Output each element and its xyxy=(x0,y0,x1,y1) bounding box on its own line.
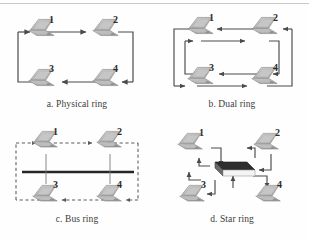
link-hub-to-3 xyxy=(207,180,215,194)
node-label-1: 1 xyxy=(53,127,58,137)
node-label-1: 1 xyxy=(199,128,204,138)
panel-bus-ring: 1 2 3 4 c. Bus ring xyxy=(0,118,154,237)
figure-network-ring-topologies: 1 2 3 4 a. Physical ring xyxy=(0,0,309,239)
central-hub-icon xyxy=(215,162,255,176)
caption-dual-ring: b. Dual ring xyxy=(155,99,309,109)
panel-star-ring: 1 2 3 4 d. Star ring xyxy=(155,118,309,237)
caption-physical-ring: a. Physical ring xyxy=(0,99,154,109)
panel-dual-ring: 1 2 3 4 b. Dual ring xyxy=(155,4,309,123)
node-label-3: 3 xyxy=(201,180,206,190)
node-label-3: 3 xyxy=(209,63,214,73)
link-3-to-hub xyxy=(189,172,201,180)
link-hub-to-2 xyxy=(247,148,255,158)
node-label-2: 2 xyxy=(117,127,122,137)
node-label-2: 2 xyxy=(273,13,278,23)
caption-star-ring: d. Star ring xyxy=(155,214,309,224)
node-label-2: 2 xyxy=(113,15,118,25)
node-label-3: 3 xyxy=(49,64,54,74)
caption-bus-ring: c. Bus ring xyxy=(0,214,154,224)
link-hub-to-1 xyxy=(199,158,210,166)
node-label-4: 4 xyxy=(113,64,118,74)
node-label-4: 4 xyxy=(273,63,278,73)
node-label-4: 4 xyxy=(277,180,282,190)
node-label-4: 4 xyxy=(117,180,122,190)
node-label-1: 1 xyxy=(49,15,54,25)
node-label-3: 3 xyxy=(53,180,58,190)
node-label-1: 1 xyxy=(209,13,214,23)
node-label-2: 2 xyxy=(275,128,280,138)
panel-physical-ring: 1 2 3 4 a. Physical ring xyxy=(0,4,154,123)
hub-front-face xyxy=(223,170,255,176)
link-2-to-4 xyxy=(118,32,133,82)
link-2-to-hub xyxy=(259,154,271,170)
